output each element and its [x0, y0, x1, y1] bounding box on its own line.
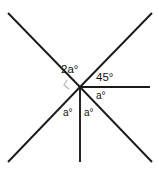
left-angle-mark [64, 80, 69, 89]
angle-diagram-figure: 2a° 45° a° a° a° [0, 0, 159, 170]
angle-label-a-right: a° [96, 90, 106, 101]
angle-label-2a: 2a° [61, 64, 78, 75]
diagram-canvas [0, 0, 159, 170]
ray-lower-left [8, 87, 80, 162]
ray-upper-left [8, 13, 80, 87]
angle-label-a-bottom-left: a° [63, 107, 73, 118]
angle-label-45: 45° [96, 72, 113, 83]
angle-label-a-bottom-right: a° [84, 107, 94, 118]
ray-lower-right [80, 87, 152, 162]
ray-upper-right [80, 13, 152, 87]
